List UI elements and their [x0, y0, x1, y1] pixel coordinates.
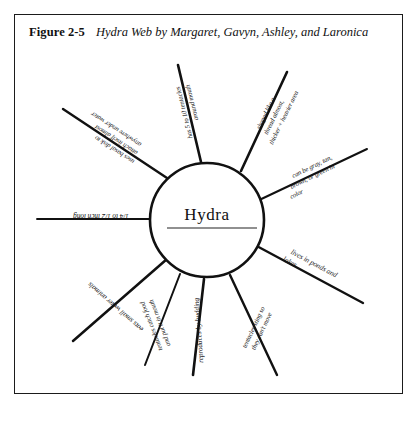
web-svg: Hydra 1/4 to 1/2 inch long eats small wa…: [15, 45, 401, 392]
spoke-label-sting: tentacles sting so they can't move: [240, 305, 274, 353]
hydra-web-diagram: Hydra 1/4 to 1/2 inch long eats small wa…: [15, 45, 401, 392]
spoke-size-line-1: 1/4 to 1/2 inch long: [73, 212, 129, 221]
spoke-label-attach: uses basal disk to attach itself almost …: [79, 110, 145, 165]
spoke-label-habitat: lives in ponds and lakes: [281, 246, 339, 289]
spoke-line-habitat: [253, 244, 363, 303]
spoke-label-size: 1/4 to 1/2 inch long: [73, 212, 129, 221]
center-node-label: Hydra: [184, 205, 229, 224]
figure-number-label: Figure 2-5: [29, 25, 85, 40]
spoke-label-food: eats small water animals: [86, 280, 146, 333]
spoke-food-line-1: eats small water animals: [86, 280, 146, 333]
spoke-label-catch-prey: tentacles catch food and put it in mouth: [138, 297, 172, 352]
spoke-budding-line-1: reproduces by budding: [192, 297, 206, 363]
figure-box: Figure 2-5 Hydra Web by Margaret, Gavyn,…: [14, 14, 403, 394]
figure-caption: Figure 2-5 Hydra Web by Margaret, Gavyn,…: [15, 15, 402, 49]
figure-title: Hydra Web by Margaret, Gavyn, Ashley, an…: [96, 25, 368, 40]
spoke-label-budding: reproduces by budding: [192, 297, 206, 363]
spoke-label-color: can be gray, tan, brown, or green in col…: [281, 153, 341, 200]
